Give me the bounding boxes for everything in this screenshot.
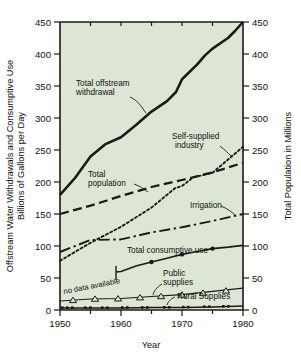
x-axis-title: Year (142, 340, 161, 350)
x-tick-label-1980: 1980 (232, 318, 253, 329)
y-tick-label-200: 200 (35, 177, 51, 188)
annotation-population-line2: population (88, 179, 126, 188)
y-tick-label-400: 400 (35, 49, 51, 60)
y-tick-label-100: 100 (35, 241, 51, 252)
annotation-rural-label: Rural Supplies (177, 292, 230, 301)
y2-tick-label-350: 350 (252, 81, 268, 92)
y-tick-label-300: 300 (35, 113, 51, 124)
y-tick-label-350: 350 (35, 81, 51, 92)
y2-tick-label-300: 300 (252, 113, 268, 124)
plot-background (60, 22, 243, 310)
annotation-total-consumptive-use: Total consumptive use (127, 246, 212, 255)
y-axis-left-title-line1: Offstream Water Withdrawals and Consumpt… (5, 60, 15, 272)
annotation-industry-line2: industry (175, 141, 205, 150)
annotation-irrigation-label: Irrigation (190, 201, 222, 210)
x-tick-label-1970: 1970 (171, 318, 192, 329)
water-use-chart: 0 50 100 150 200 250 300 350 400 450 0 5… (0, 0, 301, 360)
y-axis-right-title: Total Population in Millions (283, 111, 293, 220)
annotation-public-line1: Public (163, 269, 185, 278)
y-tick-label-0: 0 (46, 305, 51, 316)
y2-tick-label-400: 400 (252, 49, 268, 60)
chart-figure: 0 50 100 150 200 250 300 350 400 450 0 5… (0, 0, 301, 360)
y2-tick-label-250: 250 (252, 145, 268, 156)
x-tick-label-1960: 1960 (110, 318, 131, 329)
y2-tick-label-50: 50 (252, 273, 263, 284)
y-tick-label-50: 50 (40, 273, 51, 284)
annotation-offstream-line1: Total offstream (76, 79, 130, 88)
annotation-industry-line1: Self-supplied (172, 132, 220, 141)
y-tick-label-250: 250 (35, 145, 51, 156)
y2-tick-label-200: 200 (252, 177, 268, 188)
y2-tick-label-150: 150 (252, 209, 268, 220)
annotation-population-line1: Total (88, 170, 105, 179)
annotation-offstream-line2: withdrawal (75, 88, 115, 97)
y-axis-left-title-line2: Billions of Gallons per Day (16, 112, 26, 220)
y2-tick-label-450: 450 (252, 17, 268, 28)
y-tick-label-450: 450 (35, 17, 51, 28)
y2-tick-label-0: 0 (252, 305, 257, 316)
y2-tick-label-100: 100 (252, 241, 268, 252)
y-tick-label-150: 150 (35, 209, 51, 220)
x-tick-label-1950: 1950 (49, 318, 70, 329)
annotation-public-line2: supplies (163, 278, 193, 287)
annotation-consumptive-label: Total consumptive use (127, 246, 208, 255)
